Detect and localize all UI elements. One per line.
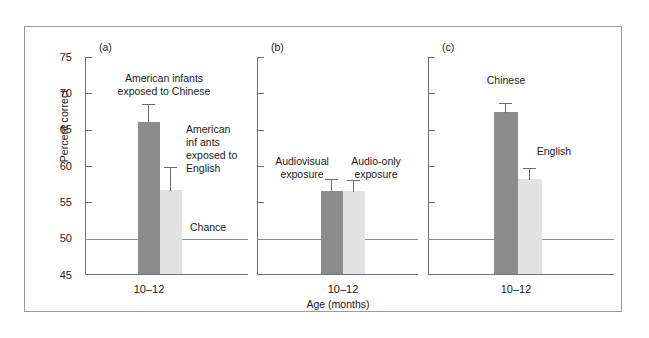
y-tick-label-55: 55 — [46, 197, 72, 208]
panel-b: (b) Audiovisual exposure Audio-only expo… — [257, 57, 418, 275]
panel-c-errorcap-light — [523, 168, 536, 169]
panel-b-errorbar-light — [353, 180, 354, 192]
panel-c-bar-light — [518, 179, 542, 274]
x-axis-title: Age (months) — [238, 298, 438, 310]
panel-b-x-tick-label: 10–12 — [303, 283, 383, 295]
panel-a-x-spine — [85, 274, 248, 275]
chance-label: Chance — [190, 221, 226, 234]
panel-c-errorbar-light — [529, 168, 530, 180]
y-tick-label-60: 60 — [46, 161, 72, 172]
panel-b-tick-60 — [258, 166, 264, 167]
panel-a-tick-75 — [86, 57, 92, 58]
y-tick-label-45: 45 — [46, 270, 72, 281]
panel-b-x-spine — [257, 274, 418, 275]
panel-c-x-tick-label: 10–12 — [476, 283, 556, 295]
panel-c-letter: (c) — [442, 41, 454, 53]
panel-a-annotation-dark: American infants exposed to Chinese — [89, 72, 239, 98]
panel-a: (a) American infants exposed to Chinese … — [85, 57, 248, 275]
panel-b-tick-65 — [258, 130, 264, 131]
panel-c-tick-60 — [429, 166, 435, 167]
panel-b-tick-55 — [258, 202, 264, 203]
panel-b-bar-light — [343, 191, 365, 274]
panel-b-annotation-light: Audio-only exposure — [341, 155, 411, 181]
y-tick-label-75: 75 — [46, 52, 72, 63]
panel-a-errorcap-dark — [142, 104, 155, 105]
panel-a-errorcap-light — [164, 167, 177, 168]
panel-c-errorbar-dark — [505, 103, 506, 113]
panel-c-annotation-dark: Chinese — [466, 74, 546, 87]
panel-b-bar-dark — [321, 191, 343, 274]
panel-c-tick-75 — [429, 57, 435, 58]
panel-a-annotation-light: American inf ants exposed to English — [186, 123, 248, 175]
y-tick-label-50: 50 — [46, 233, 72, 244]
panel-c-tick-65 — [429, 130, 435, 131]
panel-b-tick-70 — [258, 93, 264, 94]
y-tick-label-65: 65 — [46, 124, 72, 135]
panel-b-tick-75 — [258, 57, 264, 58]
panel-c-annotation-light: English — [514, 145, 594, 158]
panel-a-bar-dark — [138, 122, 160, 274]
panel-c-tick-70 — [429, 93, 435, 94]
panel-c-bar-dark — [494, 112, 518, 274]
figure-bar-chart: Percent correct 75 70 65 60 55 50 45 (a)… — [0, 0, 649, 338]
panel-a-tick-55 — [86, 202, 92, 203]
panel-b-annotation-dark: Audiovisual exposure — [269, 155, 335, 181]
panel-c: (c) Chinese English 10–12 — [428, 57, 614, 275]
panel-c-errorcap-dark — [499, 103, 512, 104]
panel-a-errorbar-light — [170, 167, 171, 191]
panel-c-x-spine — [428, 274, 614, 275]
panel-a-tick-65 — [86, 130, 92, 131]
y-tick-label-70: 70 — [46, 88, 72, 99]
panel-a-x-tick-label: 10–12 — [109, 283, 189, 295]
panel-a-errorbar-dark — [148, 104, 149, 122]
panel-a-letter: (a) — [99, 41, 112, 53]
panel-a-bar-light — [160, 190, 182, 274]
panel-a-tick-60 — [86, 166, 92, 167]
panel-b-letter: (b) — [271, 41, 284, 53]
panel-c-tick-55 — [429, 202, 435, 203]
